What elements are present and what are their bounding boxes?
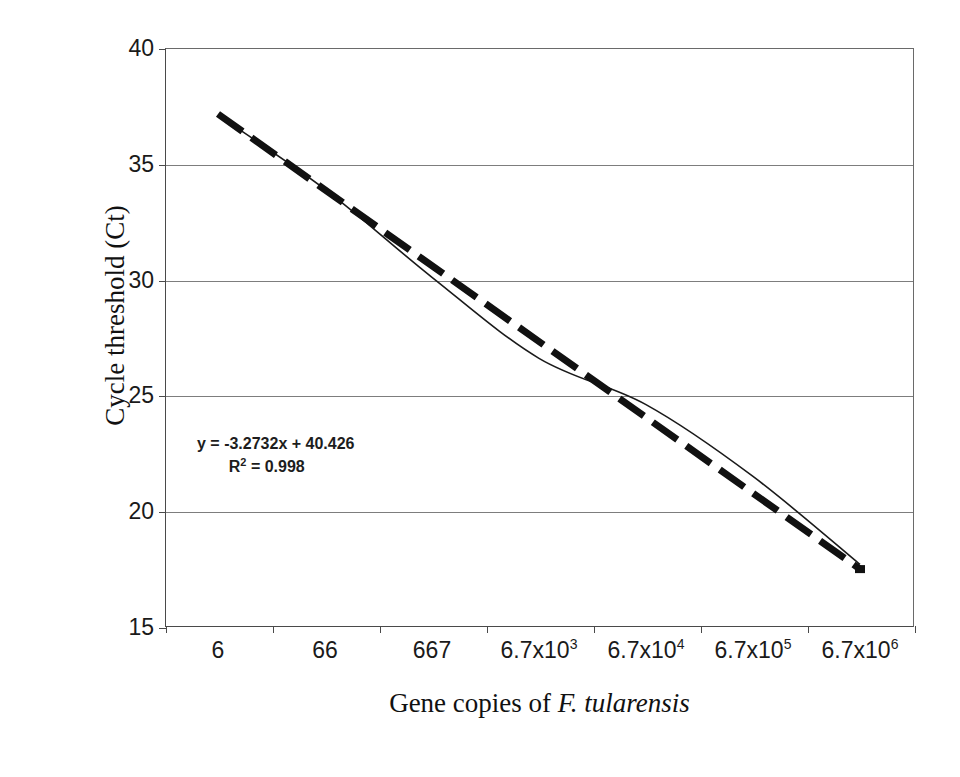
page-scan-artifact: . . . . . . . . . . . . . . . . . . (60, 766, 480, 776)
x-axis-tick-mark (166, 626, 167, 633)
x-tick-base: 6.7x10 (822, 637, 891, 663)
x-tick-exponent: 4 (677, 636, 685, 652)
x-axis-tick-mark (487, 626, 488, 633)
y-axis-tick-mark (159, 396, 166, 397)
x-axis-title-species: F. tularensis (558, 688, 690, 718)
r-squared-value: = 0.998 (251, 458, 305, 475)
r-squared-symbol: R (229, 458, 241, 475)
y-axis-tick-label: 30 (108, 269, 154, 292)
x-axis-tick-mark (701, 626, 702, 633)
gridline (166, 512, 913, 513)
y-axis-tick-labels: 403530252015 (104, 0, 154, 777)
x-tick-base: 66 (312, 637, 338, 663)
x-axis-tick-label: 6.7x103 (501, 639, 578, 662)
gridline (166, 165, 913, 166)
x-axis-tick-mark (594, 626, 595, 633)
x-axis-title-prefix: Gene copies of (389, 688, 558, 718)
x-axis-title: Gene copies of F. tularensis (165, 688, 914, 719)
y-axis-tick-label: 15 (108, 616, 154, 639)
x-tick-exponent: 6 (891, 636, 899, 652)
x-tick-exponent: 5 (784, 636, 792, 652)
y-axis-tick-label: 40 (108, 37, 154, 60)
y-axis-tick-mark (159, 165, 166, 166)
x-tick-base: 667 (413, 637, 451, 663)
gridline (166, 396, 913, 397)
x-tick-base: 6 (212, 637, 225, 663)
x-axis-tick-label: 6.7x105 (715, 639, 792, 662)
x-axis-tick-mark (380, 626, 381, 633)
y-axis-tick-mark (159, 49, 166, 50)
trendline-equation-annotation: y = -3.2732x + 40.426 R2 = 0.998 (197, 432, 354, 478)
x-axis-tick-label: 66 (312, 639, 338, 662)
x-axis-tick-mark (915, 626, 916, 633)
r-squared-exponent: 2 (240, 456, 246, 468)
x-tick-base: 6.7x10 (608, 637, 677, 663)
x-tick-exponent: 3 (570, 636, 578, 652)
x-axis-tick-mark (808, 626, 809, 633)
y-axis-tick-label: 20 (108, 500, 154, 523)
y-axis-tick-label: 25 (108, 384, 154, 407)
figure-container: Cycle threshold (Ct) 403530252015 666667… (0, 0, 960, 777)
plot-area (165, 48, 914, 627)
x-axis-tick-label: 667 (413, 639, 451, 662)
x-axis-tick-label: 6 (212, 639, 225, 662)
gridline (166, 281, 913, 282)
x-tick-base: 6.7x10 (715, 637, 784, 663)
x-axis-tick-label: 6.7x106 (822, 639, 899, 662)
r-squared-text: R2 = 0.998 (197, 455, 354, 478)
y-axis-tick-label: 35 (108, 153, 154, 176)
x-axis-tick-label: 6.7x104 (608, 639, 685, 662)
x-axis-tick-mark (273, 626, 274, 633)
y-axis-tick-mark (159, 512, 166, 513)
x-tick-base: 6.7x10 (501, 637, 570, 663)
regression-equation-text: y = -3.2732x + 40.426 (197, 432, 354, 455)
y-axis-tick-mark (159, 281, 166, 282)
